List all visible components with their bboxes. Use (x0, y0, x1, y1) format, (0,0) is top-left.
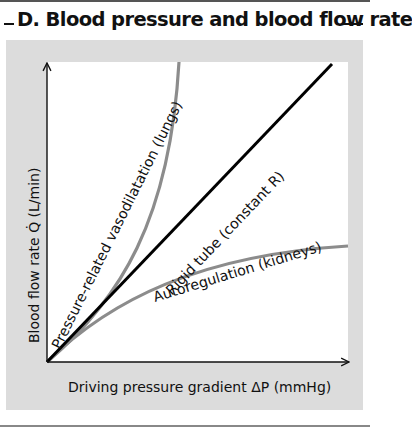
x-axis-label: Driving pressure gradient ΔP (mmHg) (68, 379, 331, 395)
bottom-rule (0, 425, 370, 427)
rigid-tube-line (47, 64, 332, 362)
y-axis-label: Blood flow rate Q̇ (L/min) (26, 168, 42, 343)
lungs-label: Pressure-related vasodilatation (lungs) (48, 99, 185, 352)
